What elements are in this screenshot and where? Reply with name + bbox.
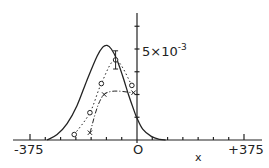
y-scale-mantissa: 5×10 <box>142 44 178 59</box>
dotted-curve <box>74 60 132 135</box>
circle-marker <box>88 110 93 115</box>
x-tick-label-max: +375 <box>228 143 264 156</box>
circle-marker <box>72 132 77 137</box>
x-axis-label: x <box>195 152 202 163</box>
cross-marker <box>131 90 135 94</box>
x-tick-label-min: -375 <box>14 143 44 156</box>
dash-dot-curve <box>90 91 134 133</box>
axes <box>13 13 262 143</box>
circle-marker <box>99 81 104 86</box>
cross-marker <box>102 92 106 96</box>
y-scale-exponent: -3 <box>178 42 187 52</box>
circle-marker <box>130 83 135 88</box>
y-scale-annotation: 5×10-3 <box>142 43 187 58</box>
x-tick-label-zero: O <box>133 143 143 156</box>
